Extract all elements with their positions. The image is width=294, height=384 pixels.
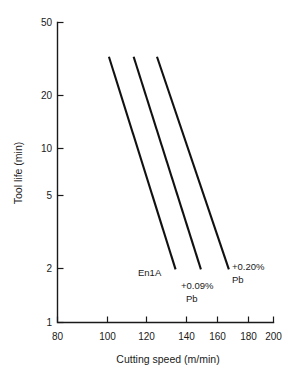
x-tick-label-100: 100: [99, 331, 116, 342]
y-tick-marks: [58, 23, 64, 323]
tool-life-chart-figure: 50 20 10 5 2 1 80 100 120 140 160 180 20…: [0, 0, 294, 384]
y-axis-title: Tool life (min): [12, 142, 24, 204]
x-tick-label-120: 120: [138, 331, 155, 342]
series-line-en1a: [109, 57, 176, 270]
series-label-pb-020-line1: +0.20%: [232, 261, 265, 272]
y-tick-label-1: 1: [46, 317, 52, 328]
y-tick-label-20: 20: [41, 90, 53, 101]
x-tick-labels: 80 100 120 140 160 180 200: [52, 331, 282, 342]
series-label-en1a: En1A: [138, 267, 162, 278]
series-label-pb-009-line1: +0.09%: [181, 280, 214, 291]
y-tick-label-2: 2: [46, 263, 52, 274]
x-tick-label-80: 80: [52, 331, 64, 342]
x-tick-marks: [58, 317, 274, 323]
x-tick-label-200: 200: [265, 331, 282, 342]
data-series-group: [109, 57, 229, 270]
series-label-pb-020-line2: Pb: [232, 274, 244, 285]
x-axis-title: Cutting speed (m/min): [116, 353, 219, 365]
x-tick-label-140: 140: [178, 331, 195, 342]
series-annotations: En1A +0.09% Pb +0.20% Pb: [138, 261, 265, 304]
y-tick-label-10: 10: [41, 143, 53, 154]
x-tick-label-180: 180: [240, 331, 257, 342]
y-tick-labels: 50 20 10 5 2 1: [41, 17, 53, 328]
x-tick-label-160: 160: [209, 331, 226, 342]
y-tick-label-50: 50: [41, 17, 53, 28]
series-label-pb-009-line2: Pb: [186, 293, 198, 304]
chart-canvas: 50 20 10 5 2 1 80 100 120 140 160 180 20…: [0, 0, 294, 384]
y-tick-label-5: 5: [46, 190, 52, 201]
